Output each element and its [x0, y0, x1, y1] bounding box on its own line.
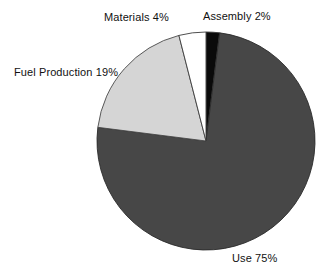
pie-slice-group: [97, 32, 315, 250]
pie-slice-label-materials: Materials 4%: [104, 11, 169, 24]
pie-chart-figure: Materials 4% Assembly 2% Fuel Production…: [0, 0, 327, 277]
pie-slice-label-fuel-production: Fuel Production 19%: [14, 66, 118, 79]
pie-slice-label-use: Use 75%: [232, 252, 277, 265]
pie-chart-svg: [0, 0, 327, 277]
pie-slice-label-assembly: Assembly 2%: [203, 10, 271, 23]
